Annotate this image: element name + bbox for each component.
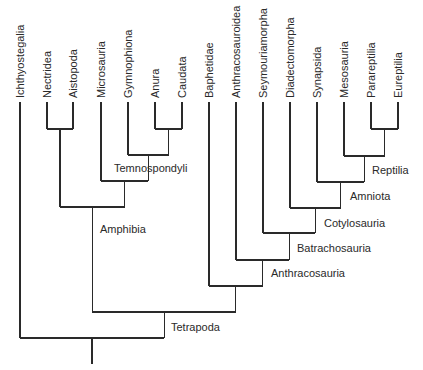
taxon-seymouriamorpha: Seymouriamorpha (257, 7, 269, 98)
taxon-labels: IchthyostegaliaNectrideaAistopodaMicrosa… (14, 5, 404, 98)
clade-labels: TemnospondyliAmphibiaReptiliaAmniotaCoty… (100, 162, 410, 333)
taxon-baphetidae: Baphetidae (203, 42, 215, 98)
taxon-diadectomorpha: Diadectomorpha (284, 16, 296, 98)
taxon-gymnophiona: Gymnophiona (122, 29, 134, 98)
taxon-aistopoda: Aistopoda (67, 48, 79, 98)
taxon-mesosauria: Mesosauria (338, 40, 350, 98)
taxon-caudata: Caudata (176, 56, 188, 98)
clade-amniota: Amniota (350, 190, 391, 202)
clade-cotylosauria: Cotylosauria (324, 217, 386, 229)
taxon-nectridea: Nectridea (41, 50, 53, 98)
taxon-anthracosauroidea: Anthracosauroidea (230, 5, 242, 98)
taxon-eureptilia: Eureptilia (392, 51, 404, 98)
clade-reptilia: Reptilia (372, 164, 410, 176)
taxon-synapsida: Synapsida (311, 46, 323, 98)
clade-amphibia: Amphibia (100, 223, 147, 235)
taxon-anura: Anura (149, 68, 161, 98)
clade-tetrapoda: Tetrapoda (171, 321, 221, 333)
clade-anthracosauria: Anthracosauria (271, 267, 346, 279)
cladogram: IchthyostegaliaNectrideaAistopodaMicrosa… (0, 0, 423, 370)
clade-batrachosauria: Batrachosauria (297, 242, 372, 254)
taxon-ichthyostegalia: Ichthyostegalia (14, 24, 26, 98)
taxon-parareptilia: Parareptilia (365, 41, 377, 98)
clade-temnospondyli: Temnospondyli (114, 162, 187, 174)
taxon-microsauria: Microsauria (95, 40, 107, 98)
